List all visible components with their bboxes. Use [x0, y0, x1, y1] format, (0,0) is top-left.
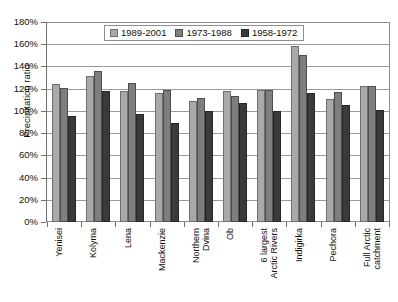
y-axis-tick-mark [41, 155, 46, 156]
y-axis-tick-mark [41, 222, 46, 223]
x-axis-tick-mark [321, 222, 322, 227]
x-axis-category-label: Mackenzie [158, 228, 168, 302]
x-axis-tick-mark [115, 222, 116, 227]
y-axis-tick-mark [41, 111, 46, 112]
y-axis-tick-mark [41, 66, 46, 67]
x-axis-category-label: Ob [226, 228, 236, 302]
x-axis-tick-mark [355, 222, 356, 227]
x-axis-tick-mark [47, 222, 48, 227]
y-axis-tick-mark [41, 89, 46, 90]
y-axis-tick-mark [41, 178, 46, 179]
x-axis-category-labels: YeniseiKolymaLenaMackenzieNorthern Dvina… [0, 0, 398, 302]
x-axis-category-label: Northern Dvina [192, 228, 211, 302]
x-axis-category-label: Pechora [329, 228, 339, 302]
x-axis-tick-mark [252, 222, 253, 227]
x-axis-category-label: Full Arctic catchment [363, 228, 382, 302]
x-axis-category-label: Kolyma [89, 228, 99, 302]
y-axis-tick-mark [41, 44, 46, 45]
x-axis-category-label: Lena [124, 228, 134, 302]
y-axis-tick-mark [41, 133, 46, 134]
y-axis-tick-mark [41, 22, 46, 23]
x-axis-tick-mark [218, 222, 219, 227]
precipitation-ratio-bar-chart: Precipitation ratio 0%20%40%60%80%100%12… [0, 0, 398, 302]
y-axis-tick-mark [41, 200, 46, 201]
x-axis-tick-mark [389, 222, 390, 227]
x-axis-category-label: 6 largest Arctic Rivers [260, 228, 279, 302]
x-axis-tick-mark [81, 222, 82, 227]
x-axis-category-label: Indigirka [295, 228, 305, 302]
x-axis-tick-mark [286, 222, 287, 227]
x-axis-tick-mark [184, 222, 185, 227]
x-axis-category-label: Yenisei [55, 228, 65, 302]
x-axis-tick-mark [150, 222, 151, 227]
